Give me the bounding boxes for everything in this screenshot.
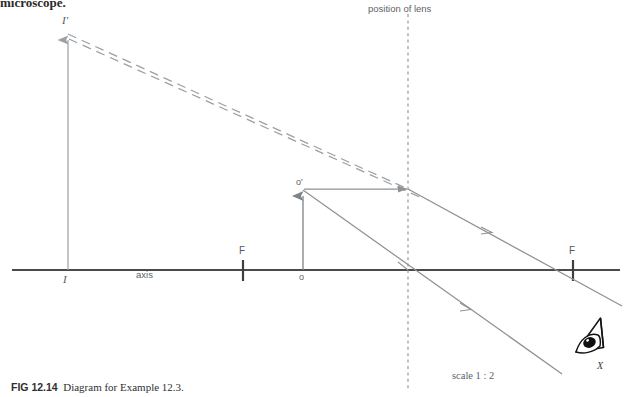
focal-point-label-right: F (569, 246, 575, 256)
figure-number: FIG 12.14 (11, 381, 58, 393)
ray-through-optical-centre (303, 190, 562, 374)
ray-diagram-canvas (0, 0, 624, 397)
eye-icon (570, 317, 620, 363)
virtual-construction-ray-upper (68, 34, 410, 190)
object-base-label: o (299, 273, 304, 282)
image-base-label: I (63, 274, 67, 285)
lens-position-label: position of lens (368, 4, 431, 14)
object-tip-label: o' (296, 178, 303, 187)
focal-point-label-left: F (239, 246, 245, 256)
scale-label: scale 1 : 2 (452, 371, 494, 382)
eye-label: X (597, 361, 603, 371)
image-tip-label: I' (62, 15, 68, 26)
refracted-ray-through-focus (408, 189, 622, 306)
figure-caption-text: Diagram for Example 12.3. (63, 381, 184, 393)
eye-icon-wrapper (570, 317, 620, 363)
figure-page: microscope. (0, 0, 624, 397)
figure-caption: FIG 12.14 Diagram for Example 12.3. (11, 381, 184, 393)
virtual-construction-ray-lower (69, 39, 424, 199)
axis-label: axis (136, 270, 153, 280)
optical-centre-ray-arrowhead (460, 303, 471, 311)
